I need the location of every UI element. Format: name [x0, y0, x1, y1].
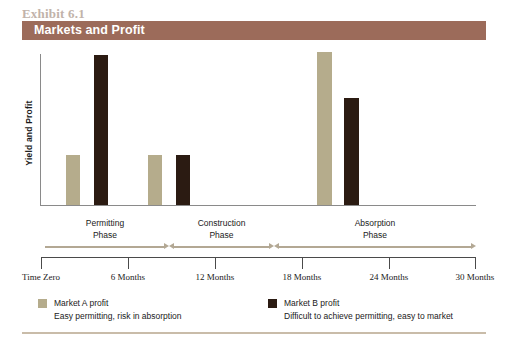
- plot-area: [41, 45, 476, 205]
- timeline-tick-label: 18 Months: [283, 272, 322, 282]
- timeline-tick-label: 6 Months: [111, 272, 145, 282]
- timeline-tick: [389, 257, 390, 269]
- timeline-tick-label: Time Zero: [22, 272, 60, 282]
- legend-title: Market A profit: [54, 298, 108, 308]
- arrow-shaft: [45, 246, 165, 248]
- banner-title: Markets and Profit: [34, 23, 145, 37]
- bar: [344, 98, 359, 205]
- bar: [148, 155, 162, 205]
- timeline-tick: [215, 257, 216, 269]
- timeline-axis-line: [41, 257, 475, 258]
- exhibit-number: Exhibit 6.1: [22, 6, 85, 22]
- phase-range-arrow: [274, 243, 476, 250]
- bar: [66, 155, 80, 205]
- phase-label-line1: Absorption: [355, 218, 396, 228]
- legend-subtitle: Difficult to achieve permitting, easy to…: [284, 311, 453, 321]
- phase-range-arrow: [169, 243, 274, 250]
- phase-label: PermittingPhase: [41, 218, 169, 241]
- phase-label: AbsorptionPhase: [274, 218, 476, 241]
- timeline-tick: [128, 257, 129, 269]
- timeline-tick-label: 30 Months: [456, 272, 495, 282]
- phase-label-line2: Phase: [209, 230, 233, 240]
- bar: [94, 55, 108, 205]
- phase-label-line2: Phase: [363, 230, 387, 240]
- timeline-tick-label: 12 Months: [196, 272, 235, 282]
- timeline-tick-label: 24 Months: [370, 272, 409, 282]
- timeline-tick: [302, 257, 303, 269]
- phase-label-line2: Phase: [93, 230, 117, 240]
- phase-label-line1: Permitting: [86, 218, 124, 228]
- legend-swatch: [38, 299, 47, 308]
- phase-range-arrow: [41, 243, 169, 250]
- arrow-head-left-icon: [169, 243, 174, 249]
- timeline-tick: [41, 257, 42, 269]
- y-axis-title: Yield and Profit: [24, 78, 34, 188]
- phase-label-line1: Construction: [198, 218, 246, 228]
- arrow-shaft: [278, 246, 472, 248]
- timeline-tick: [475, 257, 476, 269]
- arrow-head-right-icon: [471, 243, 476, 249]
- exhibit-figure: Exhibit 6.1 Markets and Profit Yield and…: [0, 0, 508, 350]
- bottom-rule: [22, 332, 486, 334]
- legend-subtitle: Easy permitting, risk in absorption: [54, 311, 182, 321]
- bar: [317, 52, 332, 205]
- title-banner: Markets and Profit: [22, 21, 486, 40]
- phase-label: ConstructionPhase: [169, 218, 274, 241]
- arrow-head-left-icon: [274, 243, 279, 249]
- arrow-shaft: [173, 246, 270, 248]
- x-axis-line: [40, 205, 476, 206]
- legend-swatch: [268, 299, 277, 308]
- legend-title: Market B profit: [284, 298, 339, 308]
- bar: [176, 155, 190, 205]
